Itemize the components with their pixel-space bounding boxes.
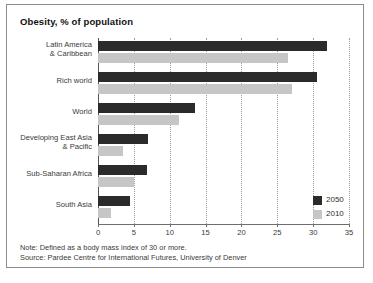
tick-mark-35: [349, 224, 350, 227]
tick-mark-20: [241, 224, 242, 227]
category-label: Developing East Asia& Pacific: [6, 133, 92, 152]
bar-2050: [98, 72, 317, 82]
tick-label-35: 35: [334, 228, 364, 237]
plot-area: Latin America& CaribbeanRich worldWorldD…: [98, 38, 349, 224]
bar-2010: [98, 84, 292, 94]
tick-mark-30: [313, 224, 314, 227]
x-axis: 05101520253035: [98, 224, 349, 240]
category-label-line: South Asia: [6, 200, 92, 209]
bar-2010: [98, 208, 111, 218]
tick-mark-25: [277, 224, 278, 227]
tick-label-15: 15: [191, 228, 221, 237]
footnotes: Note: Defined as a body mass index of 30…: [20, 243, 350, 263]
bar-2010: [98, 177, 134, 187]
footnote-source: Source: Pardee Centre for International …: [20, 253, 350, 263]
bar-2050: [98, 196, 130, 206]
bar-2050: [98, 165, 147, 175]
category-label-line: Latin America: [6, 40, 92, 49]
bar-group: World: [98, 100, 349, 131]
tick-label-25: 25: [262, 228, 292, 237]
tick-mark-10: [170, 224, 171, 227]
tick-mark-15: [206, 224, 207, 227]
category-label-line: & Caribbean: [6, 49, 92, 58]
category-label: South Asia: [6, 200, 92, 209]
tick-label-5: 5: [119, 228, 149, 237]
tick-mark-0: [98, 224, 99, 227]
category-label-line: & Pacific: [6, 142, 92, 151]
category-label: Latin America& Caribbean: [6, 40, 92, 59]
legend-swatch-2010: [313, 210, 322, 219]
bar-2010: [98, 115, 179, 125]
x-axis-line: [98, 224, 349, 225]
legend-label-2050: 2050: [326, 195, 344, 204]
category-label-line: Rich world: [6, 76, 92, 85]
bar-2050: [98, 41, 327, 51]
chart-figure: Obesity, % of population Latin America& …: [6, 4, 364, 268]
chart-title: Obesity, % of population: [20, 16, 133, 27]
bar-2010: [98, 53, 288, 63]
category-label: World: [6, 107, 92, 116]
bar-2050: [98, 134, 148, 144]
tick-mark-5: [134, 224, 135, 227]
bar-group: Developing East Asia& Pacific: [98, 131, 349, 162]
tick-label-20: 20: [226, 228, 256, 237]
legend-swatch-2050: [313, 196, 322, 205]
footnote-note: Note: Defined as a body mass index of 30…: [20, 243, 350, 253]
bar-group: Latin America& Caribbean: [98, 38, 349, 69]
category-label: Rich world: [6, 76, 92, 85]
tick-label-0: 0: [83, 228, 113, 237]
category-label: Sub-Saharan Africa: [6, 169, 92, 178]
category-label-line: World: [6, 107, 92, 116]
tick-label-10: 10: [155, 228, 185, 237]
tick-label-30: 30: [298, 228, 328, 237]
category-label-line: Developing East Asia: [6, 133, 92, 142]
gridline-35: [349, 38, 350, 224]
bar-group: Rich world: [98, 69, 349, 100]
bar-2010: [98, 146, 123, 156]
bar-group: Sub-Saharan Africa: [98, 162, 349, 193]
bar-group: South Asia: [98, 193, 349, 224]
category-label-line: Sub-Saharan Africa: [6, 169, 92, 178]
bar-2050: [98, 103, 195, 113]
legend-label-2010: 2010: [326, 209, 344, 218]
